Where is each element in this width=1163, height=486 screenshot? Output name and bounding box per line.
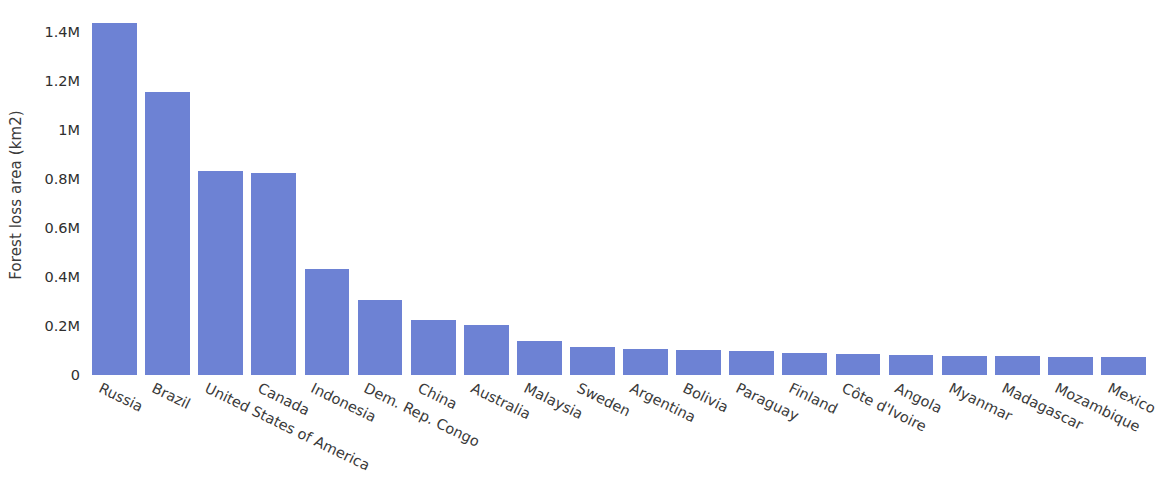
bar[interactable] [198,171,243,375]
y-axis-tick-label: 1.2M [44,73,80,89]
x-axis-tick-label: Sweden [574,379,633,420]
plot-area [88,8,1150,375]
bar-slot [570,8,615,375]
bar-slot [729,8,774,375]
bar[interactable] [1101,357,1146,375]
bar-slot [676,8,721,375]
y-axis-title: Forest loss area (km2) [0,0,32,390]
bar[interactable] [517,341,562,375]
bar[interactable] [1048,357,1093,375]
y-axis-tick-label: 0.8M [44,171,80,187]
y-axis-title-text: Forest loss area (km2) [7,110,25,280]
bar-slot [145,8,190,375]
x-axis-tick-label: Brazil [149,379,193,413]
bar-slot [889,8,934,375]
y-axis-tick-labels: 00.2M0.4M0.6M0.8M1M1.2M1.4M [32,0,84,486]
bar-slot [995,8,1040,375]
bar[interactable] [145,92,190,375]
bar-slot [836,8,881,375]
bar[interactable] [729,351,774,375]
bar[interactable] [464,325,509,375]
bar-slot [92,8,137,375]
bar[interactable] [92,23,137,375]
bar-slot [305,8,350,375]
bar-slot [358,8,403,375]
bar-slot [1101,8,1146,375]
bar-slot [251,8,296,375]
bar-slot [1048,8,1093,375]
y-axis-tick-label: 0.2M [44,318,80,334]
bar[interactable] [570,347,615,375]
bar[interactable] [942,356,987,375]
x-axis-tick-label: Malaysia [521,379,586,423]
bar[interactable] [836,354,881,375]
bar[interactable] [889,355,934,375]
bar[interactable] [676,350,721,375]
bar[interactable] [305,269,350,375]
bar-slot [942,8,987,375]
bar-slot [464,8,509,375]
y-axis-tick-label: 0.4M [44,269,80,285]
bar[interactable] [411,320,456,375]
bar[interactable] [358,300,403,375]
bar[interactable] [782,353,827,376]
bar-slot [623,8,668,375]
bar-slot [411,8,456,375]
x-axis-tick-label: Russia [96,379,146,416]
bar[interactable] [995,356,1040,375]
bar[interactable] [623,349,668,375]
bar[interactable] [251,173,296,375]
y-axis-tick-label: 1M [58,122,80,138]
x-axis-tick-label: Australia [468,379,534,423]
y-axis-tick-label: 1.4M [44,24,80,40]
bar-slot [782,8,827,375]
y-axis-tick-label: 0.6M [44,220,80,236]
bar-slot [198,8,243,375]
bar-chart: Forest loss area (km2) 00.2M0.4M0.6M0.8M… [0,0,1163,486]
bar-slot [517,8,562,375]
y-axis-tick-label: 0 [71,367,80,383]
x-axis-tick-labels: RussiaBrazilUnited States of AmericaCana… [88,375,1150,486]
